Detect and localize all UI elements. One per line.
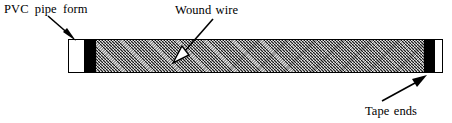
leader-tape-ends [382,75,427,101]
leader-arrows [0,0,452,123]
leader-pvc-pipe-form [48,16,76,41]
leader-wound-wire [173,19,213,63]
coil-form-diagram: PVC pipe form Wound wire Tape ends [0,0,452,123]
